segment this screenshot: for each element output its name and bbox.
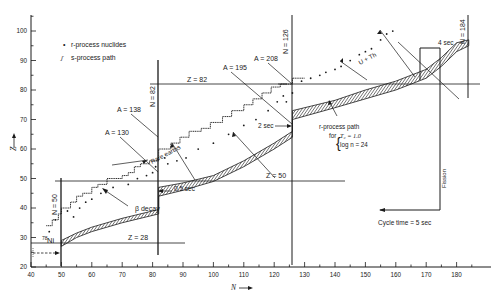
y-axis-label: Z xyxy=(9,133,18,151)
svg-text:β decay: β decay xyxy=(135,205,160,213)
cycle-arrowhead xyxy=(379,208,385,212)
y-axis-ticks: 2030405060708090100 xyxy=(16,16,36,270)
y-tick-label: 90 xyxy=(20,57,28,64)
x-tick-label: 90 xyxy=(179,271,187,278)
y-tick-label: 60 xyxy=(20,145,28,152)
x-tick-label: 100 xyxy=(208,271,219,278)
svg-text:A = 130: A = 130 xyxy=(105,129,129,136)
x-tick-label: 120 xyxy=(269,271,280,278)
svg-text:N = 50: N = 50 xyxy=(51,194,58,215)
x-tick-label: 180 xyxy=(451,271,462,278)
svg-text:Fission: Fission xyxy=(441,169,447,188)
arrowheads xyxy=(102,30,382,194)
legend-dot-icon: • xyxy=(63,41,66,48)
r-process-path-band xyxy=(61,40,468,247)
x-tick-label: 50 xyxy=(58,271,66,278)
svg-text:r-process nuclides: r-process nuclides xyxy=(71,41,127,49)
legend: • r-process nuclides ʃ s-process path xyxy=(60,41,127,62)
svg-text:{: { xyxy=(336,135,341,151)
y-tick-label: 80 xyxy=(20,86,28,93)
svg-text:N = 184: N = 184 xyxy=(459,19,466,44)
svg-text:Z = 50: Z = 50 xyxy=(266,172,286,179)
svg-text:Z: Z xyxy=(9,146,18,151)
y-tick-label: 20 xyxy=(20,263,28,270)
svg-text:A = 195: A = 195 xyxy=(223,64,247,71)
svg-text:A = 208: A = 208 xyxy=(254,55,278,62)
svg-text:r-process path: r-process path xyxy=(319,123,360,131)
svg-text:A = 138: A = 138 xyxy=(117,106,141,113)
annotation-lines xyxy=(103,30,459,206)
svg-text:Z = 82: Z = 82 xyxy=(187,76,207,83)
x-axis-label: N xyxy=(230,283,253,292)
svg-text:Cycle time = 5 sec: Cycle time = 5 sec xyxy=(378,219,432,227)
legend-step-icon: ʃ xyxy=(60,54,64,62)
ni78-marker: 78 Ni xyxy=(33,235,60,258)
svg-text:log n = 24: log n = 24 xyxy=(340,141,368,149)
svg-text:0.5 sec: 0.5 sec xyxy=(174,185,196,192)
x-tick-label: 170 xyxy=(421,271,432,278)
svg-text:N = 82: N = 82 xyxy=(149,86,156,107)
y-tick-label: 50 xyxy=(20,175,28,182)
y-tick-label: 40 xyxy=(20,204,28,211)
x-tick-label: 80 xyxy=(149,271,157,278)
r-process-chart: 405060708090100110120130140150160170180 … xyxy=(0,0,496,298)
svg-text:N = 126: N = 126 xyxy=(282,29,289,54)
svg-text:T₉ = 1.0: T₉ = 1.0 xyxy=(340,132,362,139)
x-tick-label: 40 xyxy=(27,271,35,278)
svg-text:Z = 28: Z = 28 xyxy=(128,234,148,241)
svg-text:U + Th: U + Th xyxy=(357,51,377,66)
svg-text:N: N xyxy=(230,283,237,292)
x-tick-label: 160 xyxy=(391,271,402,278)
svg-text:Ni: Ni xyxy=(47,236,54,245)
x-axis-ticks: 405060708090100110120130140150160170180 xyxy=(27,262,471,278)
x-tick-label: 60 xyxy=(88,271,96,278)
y-tick-label: 30 xyxy=(20,234,28,241)
x-tick-label: 70 xyxy=(119,271,127,278)
svg-text:2 sec: 2 sec xyxy=(258,122,274,129)
x-tick-label: 130 xyxy=(299,271,310,278)
y-tick-label: 100 xyxy=(16,27,27,34)
x-tick-label: 150 xyxy=(360,271,371,278)
svg-text:4 sec: 4 sec xyxy=(438,39,454,46)
y-tick-label: 70 xyxy=(20,116,28,123)
svg-text:s-process path: s-process path xyxy=(71,54,116,62)
x-tick-label: 140 xyxy=(330,271,341,278)
x-tick-label: 110 xyxy=(239,271,250,278)
